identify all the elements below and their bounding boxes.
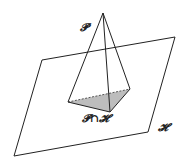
- intersection-region: [68, 89, 130, 112]
- plane-label: 𝓗: [158, 122, 168, 133]
- intersection-label: 𝓟∩𝓗: [82, 113, 109, 124]
- pyramid-label: 𝓟: [80, 22, 88, 33]
- pyramid-plane-diagram: [0, 0, 187, 166]
